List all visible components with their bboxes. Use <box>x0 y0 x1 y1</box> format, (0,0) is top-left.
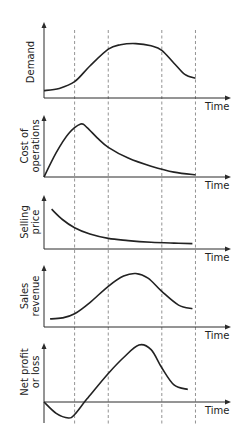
y-axis-arrow <box>42 22 47 28</box>
chart-panels: TimeDemandTimeCost ofoperationsTimeSelli… <box>19 22 231 423</box>
x-axis-arrow <box>225 247 231 252</box>
series-line-sales-revenue <box>50 273 192 318</box>
x-axis-label: Time <box>204 330 229 341</box>
panel-demand: TimeDemand <box>25 22 231 112</box>
series-line-demand <box>44 44 196 91</box>
phase-boundary-lines <box>75 30 196 426</box>
panel-selling-price: TimeSellingprice <box>19 195 231 263</box>
y-axis-arrow <box>42 195 47 201</box>
x-axis-arrow <box>225 96 231 101</box>
x-axis-label: Time <box>204 180 229 191</box>
panel-sales-revenue: TimeSalesrevenue <box>19 265 231 341</box>
panel-cost-of-operations: TimeCost ofoperations <box>19 115 231 191</box>
series-line-net-profit-or-loss <box>44 345 188 418</box>
y-axis-label: Cost ofoperations <box>19 119 41 172</box>
y-axis-arrow <box>42 343 47 349</box>
x-axis-arrow <box>225 400 231 405</box>
y-axis-arrow <box>42 265 47 271</box>
x-axis-label: Time <box>204 101 229 112</box>
y-axis-label: Salesrevenue <box>19 276 41 317</box>
y-axis-label: Demand <box>25 41 36 83</box>
series-line-selling-price <box>52 209 193 243</box>
y-axis-arrow <box>42 115 47 121</box>
x-axis-label: Time <box>204 252 229 263</box>
product-life-cycle-chart: TimeDemandTimeCost ofoperationsTimeSelli… <box>0 0 245 443</box>
y-axis-label: Net profitor loss <box>19 348 41 395</box>
x-axis-label: Time <box>204 405 229 416</box>
panel-net-profit-or-loss: TimeNet profitor loss <box>19 343 231 423</box>
y-axis-label: Sellingprice <box>19 205 41 239</box>
x-axis-arrow <box>225 175 231 180</box>
x-axis-arrow <box>225 325 231 330</box>
series-line-cost-of-operations <box>44 124 196 177</box>
